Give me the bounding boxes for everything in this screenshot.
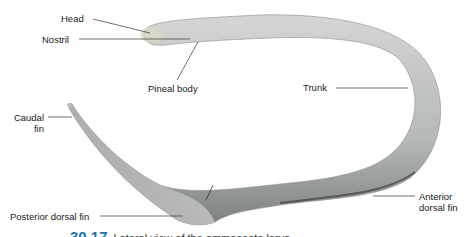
label-posterior-dorsal-fin: Posterior dorsal fin — [10, 211, 89, 222]
label-trunk: Trunk — [303, 82, 327, 93]
tail-fin-shape — [70, 104, 215, 225]
label-pineal-body: Pineal body — [148, 83, 198, 94]
label-anterior-dorsal-fin: Anterior dorsal fin — [419, 191, 458, 213]
head-tip — [140, 27, 164, 43]
pineal-leader — [177, 42, 198, 80]
label-nostril: Nostril — [42, 34, 69, 45]
figure-canvas: Head Nostril Pineal body Trunk Caudal fi… — [0, 0, 468, 237]
label-anterior-dorsal-fin-line1: Anterior — [419, 191, 458, 202]
label-caudal-fin-line1: Caudal — [8, 112, 44, 123]
figure-number: 30.17 — [70, 228, 108, 237]
head-leader — [93, 19, 150, 33]
body-shape — [68, 15, 441, 225]
label-anterior-dorsal-fin-line2: dorsal fin — [419, 202, 458, 213]
label-caudal-fin: Caudal fin — [8, 112, 44, 134]
specimen-illustration — [0, 0, 468, 237]
figure-caption-text: Lateral view of the ammocoete larva — [114, 232, 291, 237]
label-head: Head — [61, 13, 84, 24]
label-caudal-fin-line2: fin — [8, 123, 44, 134]
figure-caption: 30.17Lateral view of the ammocoete larva — [70, 228, 290, 237]
